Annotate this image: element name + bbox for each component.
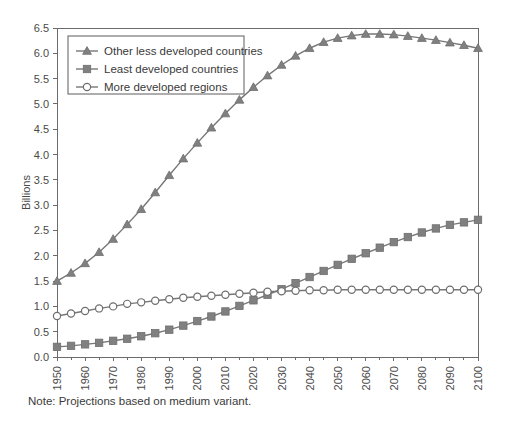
y-tick-label: 6.0 bbox=[34, 47, 49, 59]
series-3 bbox=[53, 286, 481, 320]
y-tick-label: 2.0 bbox=[34, 250, 49, 262]
data-marker-circle bbox=[208, 292, 215, 299]
data-marker-square bbox=[292, 279, 299, 286]
data-marker-circle bbox=[376, 286, 383, 293]
legend-label-2: Least developed countries bbox=[104, 63, 239, 75]
data-marker-triangle bbox=[305, 44, 314, 52]
data-marker-square bbox=[67, 342, 74, 349]
data-marker-circle bbox=[418, 286, 425, 293]
data-marker-circle bbox=[264, 288, 271, 295]
data-marker-circle bbox=[138, 299, 145, 306]
x-tick-label: 1980 bbox=[135, 366, 147, 390]
data-marker-circle bbox=[250, 289, 257, 296]
data-marker-square bbox=[208, 313, 215, 320]
y-tick-label: 0.5 bbox=[34, 326, 49, 338]
data-marker-square bbox=[460, 219, 467, 226]
y-tick-label: 5.0 bbox=[34, 98, 49, 110]
data-marker-square bbox=[376, 244, 383, 251]
data-marker-circle bbox=[390, 286, 397, 293]
x-tick-label: 1960 bbox=[79, 366, 91, 390]
data-marker-square bbox=[152, 330, 159, 337]
data-marker-circle bbox=[474, 286, 481, 293]
data-marker-circle bbox=[194, 293, 201, 300]
population-projection-chart: 0.00.51.01.52.02.53.03.54.04.55.05.56.06… bbox=[0, 0, 510, 423]
x-tick-label: 2010 bbox=[219, 366, 231, 390]
data-marker-square bbox=[194, 317, 201, 324]
x-tick-label: 2060 bbox=[360, 366, 372, 390]
data-marker-square bbox=[180, 322, 187, 329]
series-2 bbox=[53, 216, 481, 350]
data-marker-circle bbox=[348, 286, 355, 293]
x-tick-label: 2040 bbox=[304, 366, 316, 390]
data-marker-square bbox=[222, 308, 229, 315]
y-tick-label: 4.5 bbox=[34, 123, 49, 135]
data-marker-circle bbox=[362, 286, 369, 293]
data-marker-square bbox=[123, 335, 130, 342]
data-marker-square bbox=[138, 333, 145, 340]
x-tick-label: 2080 bbox=[416, 366, 428, 390]
data-marker-circle bbox=[404, 286, 411, 293]
data-marker-circle bbox=[96, 305, 103, 312]
data-marker-circle bbox=[180, 294, 187, 301]
y-tick-label: 1.0 bbox=[34, 300, 49, 312]
data-marker-circle bbox=[152, 297, 159, 304]
data-marker-triangle bbox=[291, 51, 300, 59]
data-marker-circle bbox=[83, 83, 90, 90]
data-marker-triangle bbox=[263, 71, 272, 79]
legend-label-1: Other less developed countries bbox=[104, 45, 263, 57]
data-marker-circle bbox=[320, 287, 327, 294]
x-tick-label: 2100 bbox=[472, 366, 484, 390]
chart-legend: Other less developed countriesLeast deve… bbox=[68, 36, 263, 94]
data-marker-square bbox=[348, 255, 355, 262]
data-marker-square bbox=[166, 326, 173, 333]
data-marker-circle bbox=[53, 312, 60, 319]
data-marker-circle bbox=[432, 286, 439, 293]
x-tick-label: 2070 bbox=[388, 366, 400, 390]
data-marker-square bbox=[362, 250, 369, 257]
data-marker-circle bbox=[166, 296, 173, 303]
data-marker-square bbox=[404, 233, 411, 240]
x-tick-label: 1990 bbox=[163, 366, 175, 390]
data-marker-square bbox=[320, 267, 327, 274]
data-marker-square bbox=[95, 339, 102, 346]
data-marker-triangle bbox=[277, 61, 286, 69]
y-tick-label: 1.5 bbox=[34, 275, 49, 287]
y-axis-title: Billions bbox=[20, 175, 32, 210]
x-tick-label: 1970 bbox=[107, 366, 119, 390]
data-marker-circle bbox=[306, 287, 313, 294]
data-marker-triangle bbox=[67, 269, 76, 277]
chart-note: Note: Projections based on medium varian… bbox=[28, 395, 251, 407]
x-tick-label: 2090 bbox=[444, 366, 456, 390]
legend-label-3: More developed regions bbox=[104, 81, 228, 93]
data-marker-square bbox=[334, 261, 341, 268]
data-marker-circle bbox=[67, 310, 74, 317]
data-marker-square bbox=[236, 302, 243, 309]
data-marker-circle bbox=[334, 286, 341, 293]
data-marker-square bbox=[446, 221, 453, 228]
series-path bbox=[57, 220, 478, 347]
x-tick-label: 2030 bbox=[276, 366, 288, 390]
data-marker-square bbox=[250, 297, 257, 304]
data-marker-square bbox=[418, 229, 425, 236]
y-tick-label: 2.5 bbox=[34, 224, 49, 236]
y-tick-label: 5.5 bbox=[34, 73, 49, 85]
y-tick-label: 3.5 bbox=[34, 174, 49, 186]
data-marker-circle bbox=[236, 290, 243, 297]
data-marker-square bbox=[432, 225, 439, 232]
data-marker-circle bbox=[278, 288, 285, 295]
data-marker-square bbox=[53, 343, 60, 350]
data-marker-circle bbox=[292, 287, 299, 294]
data-marker-square bbox=[81, 341, 88, 348]
y-tick-label: 6.5 bbox=[34, 22, 49, 34]
chart-canvas: 0.00.51.01.52.02.53.03.54.04.55.05.56.06… bbox=[0, 0, 510, 423]
data-marker-circle bbox=[81, 307, 88, 314]
data-marker-square bbox=[83, 65, 90, 72]
x-tick-label: 2000 bbox=[191, 366, 203, 390]
data-marker-circle bbox=[446, 286, 453, 293]
data-marker-circle bbox=[124, 300, 131, 307]
x-tick-label: 2050 bbox=[332, 366, 344, 390]
data-marker-square bbox=[390, 238, 397, 245]
y-tick-label: 3.0 bbox=[34, 199, 49, 211]
data-marker-circle bbox=[222, 291, 229, 298]
data-marker-square bbox=[306, 273, 313, 280]
